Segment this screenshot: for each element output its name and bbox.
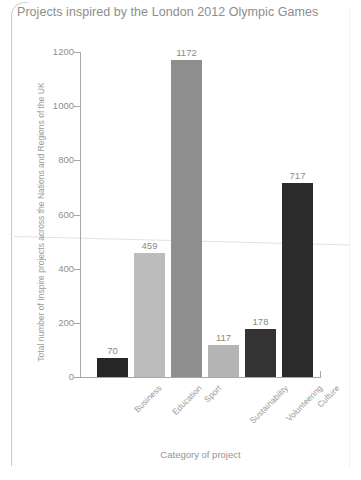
x-axis-category-label: Education: [170, 383, 204, 417]
bar-series: 70Business459Education1172Sport117Sustai…: [0, 0, 361, 480]
bar-value-label: 1172: [157, 47, 217, 58]
bar: [134, 253, 165, 377]
bar: [282, 183, 313, 377]
bar: [245, 329, 276, 377]
x-axis-category-label: Sport: [201, 383, 222, 404]
bar: [97, 358, 128, 377]
bar: [208, 345, 239, 377]
x-axis-category-label: Business: [132, 383, 163, 414]
bar: [171, 60, 202, 377]
x-axis-category-label: Sustainability: [247, 383, 289, 425]
x-axis-title: Category of project: [80, 449, 321, 460]
chart-page: Projects inspired by the London 2012 Oly…: [0, 0, 361, 480]
bar-value-label: 717: [268, 170, 328, 181]
